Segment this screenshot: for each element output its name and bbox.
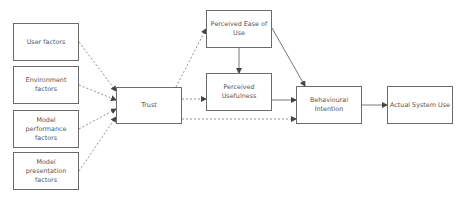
node-perceived-usefulness: Perceived Usefulness: [206, 73, 272, 111]
node-actual-system-use: Actual System Use: [387, 86, 453, 124]
node-behavioural-intention: Behavioural Intention: [296, 86, 362, 124]
edge-user-trust: [79, 42, 116, 91]
node-label: Perceived Usefulness: [209, 83, 269, 101]
node-user-factors: User factors: [13, 23, 79, 61]
edge-env-trust: [79, 85, 116, 100]
node-label: Actual System Use: [390, 101, 450, 110]
diagram-canvas: User factors Environment factors Model p…: [0, 0, 464, 197]
node-label: Environment factors: [16, 76, 76, 94]
node-label: Trust: [141, 101, 156, 110]
node-perceived-ease-of-use: Perceived Ease of Use: [206, 10, 272, 48]
edge-trust-peou: [176, 29, 206, 87]
edge-pres-trust: [79, 117, 116, 171]
node-label: Perceived Ease of Use: [209, 20, 269, 38]
node-label: Model presentation factors: [16, 158, 76, 185]
edge-perf-trust: [79, 109, 116, 129]
node-model-presentation-factors: Model presentation factors: [13, 152, 79, 190]
node-label: Model performance factors: [16, 116, 76, 143]
node-trust: Trust: [116, 87, 182, 124]
node-label: Behavioural Intention: [299, 96, 359, 114]
node-label: User factors: [27, 38, 66, 47]
edge-peou-bi: [272, 28, 305, 86]
node-environment-factors: Environment factors: [13, 66, 79, 104]
node-model-performance-factors: Model performance factors: [13, 110, 79, 148]
